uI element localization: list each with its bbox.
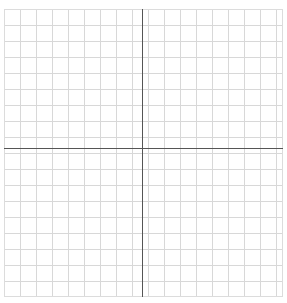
coordinate-grid-figure xyxy=(0,0,287,303)
x-axis-line xyxy=(4,148,283,149)
grid-border xyxy=(4,9,283,297)
y-axis-line xyxy=(142,9,143,297)
plot-area xyxy=(4,9,283,297)
